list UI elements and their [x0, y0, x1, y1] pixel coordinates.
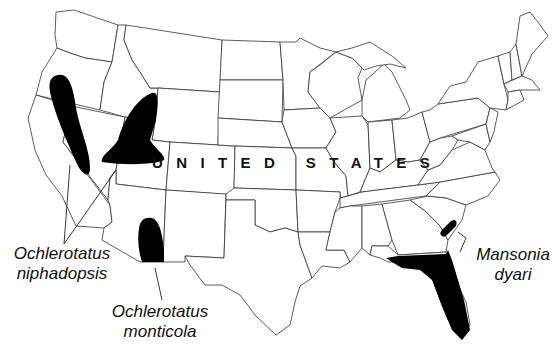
state-newmexico	[163, 190, 226, 262]
species-label-dyari: Mansonia dyari	[470, 245, 556, 285]
species-epithet: niphadopsis	[6, 264, 118, 284]
state-southdakota	[218, 80, 283, 122]
species-epithet: dyari	[470, 265, 556, 285]
state-connecticut	[506, 90, 524, 110]
species-label-niphadopsis: Ochlerotatus niphadopsis	[6, 244, 118, 284]
us-map	[0, 0, 556, 353]
country-label: UNITED STATES	[152, 154, 443, 171]
leader-dyari	[458, 232, 466, 252]
species-genus: Mansonia	[470, 245, 556, 265]
state-wyoming	[152, 88, 220, 145]
state-northdakota	[220, 40, 283, 80]
state-maine	[516, 12, 548, 76]
state-nebraska	[218, 118, 292, 148]
leader-monticola	[155, 268, 162, 300]
state-michigan	[362, 64, 410, 122]
range-dyari-florida	[386, 250, 470, 340]
species-epithet: monticola	[108, 322, 212, 342]
species-label-monticola: Ochlerotatus monticola	[108, 302, 212, 342]
species-genus: Ochlerotatus	[108, 302, 212, 322]
state-boundaries	[28, 10, 548, 335]
species-genus: Ochlerotatus	[6, 244, 118, 264]
